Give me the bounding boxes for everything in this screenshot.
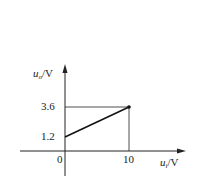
endpoint-dot	[127, 105, 131, 109]
tick-y-3-6: 3.6	[41, 101, 55, 112]
tick-x-0: 0	[57, 154, 63, 165]
y-axis-unit: /V	[42, 67, 53, 79]
y-axis-arrow-icon	[63, 64, 68, 73]
data-line	[65, 107, 129, 137]
x-axis-unit: /V	[167, 156, 178, 168]
tick-x-10: 10	[123, 154, 134, 165]
y-axis-label: uo/V	[33, 68, 53, 81]
x-axis-arrow-icon	[177, 149, 186, 154]
chart-canvas	[0, 0, 207, 182]
tick-y-1-2: 1.2	[41, 131, 55, 142]
x-axis-label: ui/V	[160, 157, 178, 170]
